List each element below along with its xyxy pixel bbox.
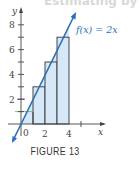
x-tick-label-2: 2 bbox=[42, 129, 48, 139]
x-tick-label-4: 4 bbox=[66, 129, 72, 139]
x-tick-label-0: 0 bbox=[23, 128, 29, 138]
x-axis-label: x bbox=[98, 127, 103, 137]
function-label: f(x) = 2x bbox=[75, 24, 118, 35]
y-tick-label-6: 6 bbox=[9, 45, 15, 55]
y-axis-arrow-icon bbox=[19, 7, 23, 13]
y-axis-label: y bbox=[11, 6, 18, 16]
rect-3 bbox=[57, 37, 69, 124]
y-tick-label-4: 4 bbox=[9, 70, 15, 80]
line-arrow-top-icon bbox=[71, 12, 77, 20]
rectangles bbox=[33, 37, 69, 124]
y-tick-label-8: 8 bbox=[9, 20, 15, 30]
x-axis-arrow-icon bbox=[100, 122, 106, 126]
figure-caption: FIGURE 13 bbox=[11, 145, 99, 157]
rect-1 bbox=[33, 87, 45, 124]
y-tick-label-2: 2 bbox=[9, 95, 15, 105]
